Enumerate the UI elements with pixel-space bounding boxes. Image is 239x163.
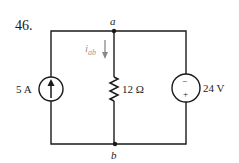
node-a-label: a: [110, 16, 116, 27]
resistor-icon: [110, 77, 118, 101]
bottom-wire: [51, 101, 186, 144]
current-direction-arrow-icon: [102, 40, 108, 59]
top-wire: [51, 31, 186, 77]
current-label-sub: ab: [88, 48, 96, 57]
node-b-label: b: [111, 150, 117, 161]
problem-number: 46.: [15, 19, 33, 33]
node-b-dot: [113, 142, 117, 146]
circuit-diagram: 46. a b iab 5 A 12 Ω 24 V − +: [0, 0, 239, 163]
current-arrow-up-icon: [48, 79, 55, 98]
resistor-label: 12 Ω: [122, 84, 144, 95]
node-a-dot: [112, 29, 116, 33]
current-source-label: 5 A: [16, 84, 32, 95]
voltage-plus-sign: +: [183, 90, 188, 99]
voltage-source-label: 24 V: [203, 83, 225, 94]
voltage-minus-sign: −: [182, 77, 187, 86]
current-label: iab: [85, 43, 96, 57]
wires: [39, 31, 200, 144]
